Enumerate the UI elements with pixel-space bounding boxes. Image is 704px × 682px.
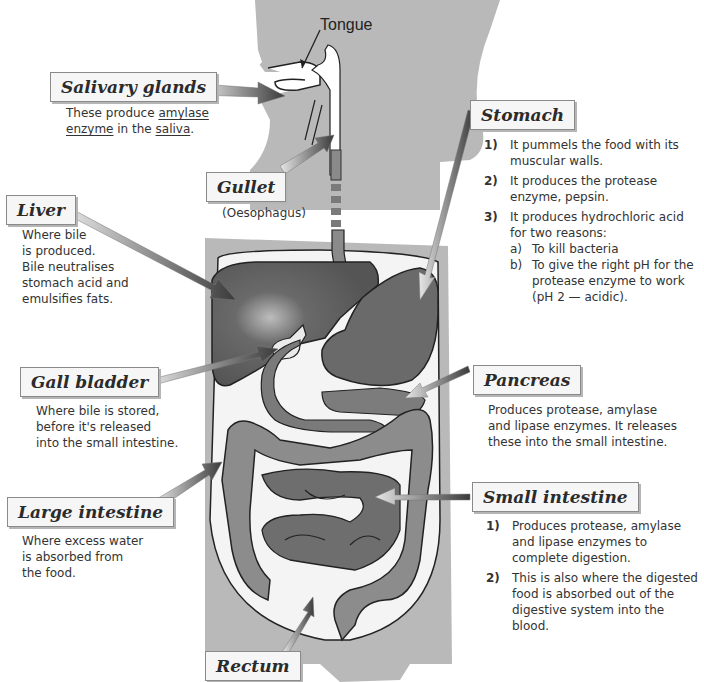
gullet-sublabel: (Oesophagus): [222, 205, 306, 221]
salivary-glands-description: These produce amylase enzyme in the sali…: [66, 105, 236, 137]
liver-description: Where bile is produced. Bile neutralises…: [22, 227, 172, 307]
small-intestine-description: 1)Produces protease, amylase and lipase …: [486, 518, 698, 638]
stomach-point-3: 3)It produces hydrochloric acid for two …: [484, 209, 699, 241]
stomach-point-1: 1)It pummels the food with its muscular …: [484, 137, 699, 169]
tongue-label: Tongue: [320, 16, 373, 34]
stomach-description: 1)It pummels the food with its muscular …: [484, 137, 699, 305]
rectum-label: Rectum: [205, 651, 301, 681]
small-intestine-shape: [262, 469, 400, 570]
salivary-glands-label: Salivary glands: [50, 72, 217, 102]
stomach-label: Stomach: [470, 100, 575, 130]
stomach-subpoint-a: a)To kill bacteria: [510, 241, 699, 257]
large-intestine-description: Where excess water is absorbed from the …: [22, 533, 172, 581]
stomach-point-2: 2)It produces the protease enzyme, pepsi…: [484, 173, 699, 205]
stomach-subpoint-b: b)To give the right pH for the protease …: [510, 257, 699, 305]
large-intestine-label: Large intestine: [7, 497, 174, 527]
gullet-label: Gullet: [206, 172, 286, 202]
gullet-tube: [331, 150, 341, 180]
small-intestine-point-1: 1)Produces protease, amylase and lipase …: [486, 518, 698, 566]
small-intestine-point-2: 2)This is also where the digested food i…: [486, 570, 698, 634]
pancreas-description: Produces protease, amylase and lipase en…: [488, 402, 703, 450]
small-intestine-label: Small intestine: [472, 482, 639, 512]
gall-bladder-label: Gall bladder: [20, 367, 159, 397]
digestive-system-diagram: Tongue Salivary glands These produce amy…: [0, 0, 704, 682]
liver-label: Liver: [6, 195, 76, 225]
gall-bladder-description: Where bile is stored, before it's releas…: [36, 403, 206, 451]
pancreas-label: Pancreas: [473, 365, 581, 395]
